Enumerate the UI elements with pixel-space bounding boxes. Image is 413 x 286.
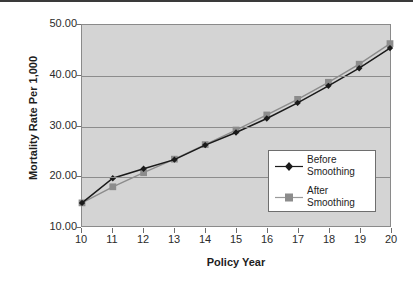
x-tick-mark-16 — [267, 228, 268, 233]
data-point-square-year-11 — [109, 183, 116, 190]
legend-label-before-smoothing: Before Smoothing — [307, 154, 375, 177]
legend-label-before-line1: Before — [307, 154, 375, 166]
x-tick-label-12: 12 — [128, 234, 158, 245]
y-axis-title: Mortality Rate Per 1,000 — [27, 23, 39, 213]
x-tick-label-19: 19 — [345, 234, 375, 245]
x-tick-mark-12 — [143, 228, 144, 233]
x-tick-label-13: 13 — [159, 234, 189, 245]
y-tick-mark-30.00 — [76, 126, 81, 127]
legend-label-after-line1: After — [307, 185, 375, 197]
gridline-y-30 — [82, 127, 390, 128]
y-tick-label-50.00: 50.00 — [3, 18, 77, 29]
legend-item-before-smoothing: Before Smoothing — [269, 151, 375, 182]
x-tick-mark-14 — [205, 228, 206, 233]
mortality-rate-line-chart: 10.0020.0030.0040.0050.00 Mortality Rate… — [0, 0, 413, 286]
x-tick-label-14: 14 — [190, 234, 220, 245]
x-tick-label-15: 15 — [221, 234, 251, 245]
x-tick-label-18: 18 — [314, 234, 344, 245]
x-tick-label-10: 10 — [66, 234, 96, 245]
y-tick-mark-20.00 — [76, 176, 81, 177]
y-tick-mark-50.00 — [76, 24, 81, 25]
x-tick-mark-17 — [298, 228, 299, 233]
legend-label-after-smoothing: After Smoothing — [307, 185, 375, 208]
y-tick-label-30.00: 30.00 — [3, 120, 77, 131]
legend-marker-diamond-icon — [274, 151, 304, 182]
chart-legend: Before Smoothing After Smoothing — [268, 150, 376, 212]
y-tick-label-20.00: 20.00 — [3, 170, 77, 181]
x-tick-label-11: 11 — [97, 234, 127, 245]
legend-label-before-line2: Smoothing — [307, 166, 375, 178]
x-tick-label-20: 20 — [376, 234, 406, 245]
x-tick-mark-18 — [329, 228, 330, 233]
legend-item-after-smoothing: After Smoothing — [269, 182, 375, 213]
gridline-y-40 — [82, 76, 390, 77]
legend-label-after-line2: Smoothing — [307, 197, 375, 209]
x-tick-mark-15 — [236, 228, 237, 233]
y-tick-label-40.00: 40.00 — [3, 69, 77, 80]
legend-marker-square-icon — [274, 182, 304, 213]
x-axis-title: Policy Year — [81, 256, 391, 268]
x-tick-mark-20 — [391, 228, 392, 233]
x-tick-mark-10 — [81, 228, 82, 233]
y-tick-mark-40.00 — [76, 75, 81, 76]
y-tick-label-10.00: 10.00 — [3, 221, 77, 232]
x-tick-mark-13 — [174, 228, 175, 233]
x-tick-label-17: 17 — [283, 234, 313, 245]
x-tick-mark-11 — [112, 228, 113, 233]
x-tick-label-16: 16 — [252, 234, 282, 245]
x-tick-mark-19 — [360, 228, 361, 233]
